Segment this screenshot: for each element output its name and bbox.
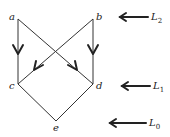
level-arrow-l0-icon — [110, 119, 146, 127]
level-arrow-l1-icon — [122, 82, 150, 90]
node-label-a: a — [9, 11, 15, 22]
level-label-l1: L1 — [152, 80, 164, 94]
arrowhead-b-c-icon — [34, 61, 43, 70]
level-arrow-l2-icon — [120, 13, 148, 21]
level-label-l2: L2 — [150, 11, 162, 25]
node-label-c: c — [9, 80, 15, 91]
level-label-l0: L0 — [148, 117, 160, 131]
node-label-e: e — [53, 122, 59, 133]
node-label-b: b — [96, 11, 102, 22]
edge-c-e — [18, 84, 56, 121]
node-label-d: d — [96, 80, 102, 91]
edge-d-e — [56, 84, 93, 121]
arrowhead-a-d-icon — [68, 61, 77, 70]
lattice-diagram: a b c d e L2 L1 L0 — [0, 0, 170, 137]
